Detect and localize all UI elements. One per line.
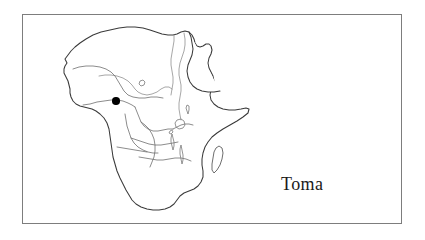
madagascar-island-shape: [212, 146, 223, 173]
horn-of-africa-detail: [187, 32, 220, 92]
map-caption-label: Toma: [281, 175, 323, 193]
figure-panel: Toma: [22, 14, 402, 224]
africa-locator-map: [53, 19, 253, 219]
africa-coastline-path: [64, 27, 249, 210]
site-location-dot: [112, 97, 120, 105]
